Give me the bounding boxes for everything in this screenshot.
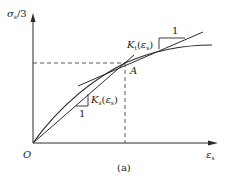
diagram-graphics xyxy=(0,0,229,182)
x-label-subscript: s xyxy=(211,154,214,161)
figure-caption: (a) xyxy=(117,163,131,173)
x-axis-label: εs xyxy=(206,150,214,161)
secant-slope-unit: 1 xyxy=(79,109,85,119)
stress-strain-curve xyxy=(33,45,212,143)
kt-arg-subscript: s xyxy=(146,44,149,51)
kt-subscript: t xyxy=(134,44,136,51)
origin-label: O xyxy=(23,150,31,160)
ks-subscript: s xyxy=(98,99,101,106)
ks-arg-subscript: s xyxy=(111,99,114,106)
y-label-suffix: /3 xyxy=(17,8,27,19)
stress-strain-diagram: σs/3 εs O A Kt(εs) 1 Ks(εs) 1 (a) xyxy=(0,0,229,182)
secant-modulus-label: Ks(εs) xyxy=(91,95,118,106)
y-axis-label: σs/3 xyxy=(7,9,27,20)
x-axis-arrow-icon xyxy=(208,141,218,146)
y-label-symbol: σ xyxy=(7,8,14,19)
point-a-label: A xyxy=(130,66,137,76)
tangent-modulus-label: Kt(εs) xyxy=(127,40,153,51)
tangent-slope-unit: 1 xyxy=(172,26,178,36)
y-axis-arrow-icon xyxy=(31,13,36,22)
